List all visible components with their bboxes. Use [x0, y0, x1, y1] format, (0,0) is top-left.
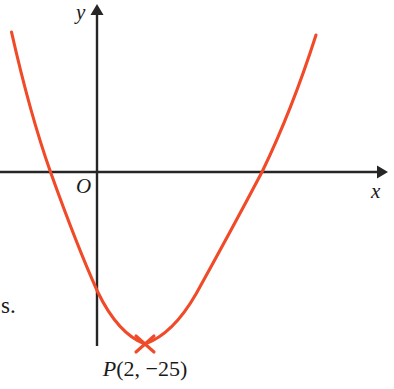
y-axis-label: y — [76, 2, 85, 23]
parabola-curve — [12, 32, 317, 344]
x-axis-label: x — [371, 181, 380, 202]
point-label-close-paren: ) — [180, 356, 187, 381]
point-label-x-value: 2 — [124, 356, 135, 381]
x-axis-arrowhead — [377, 166, 388, 179]
point-label-separator: , — [135, 356, 146, 381]
parabola-figure: y x O P(2, −25) s. — [0, 0, 394, 389]
graph-canvas — [0, 0, 394, 389]
point-label-name: P — [103, 356, 116, 381]
vertex-cross-marker — [136, 336, 154, 352]
point-label: P(2, −25) — [0, 358, 290, 380]
edge-text-fragment: s. — [1, 294, 16, 317]
point-label-open-paren: ( — [116, 356, 123, 381]
y-axis-arrowhead — [91, 4, 104, 15]
origin-label: O — [76, 176, 91, 197]
point-label-y-value: −25 — [146, 356, 180, 381]
